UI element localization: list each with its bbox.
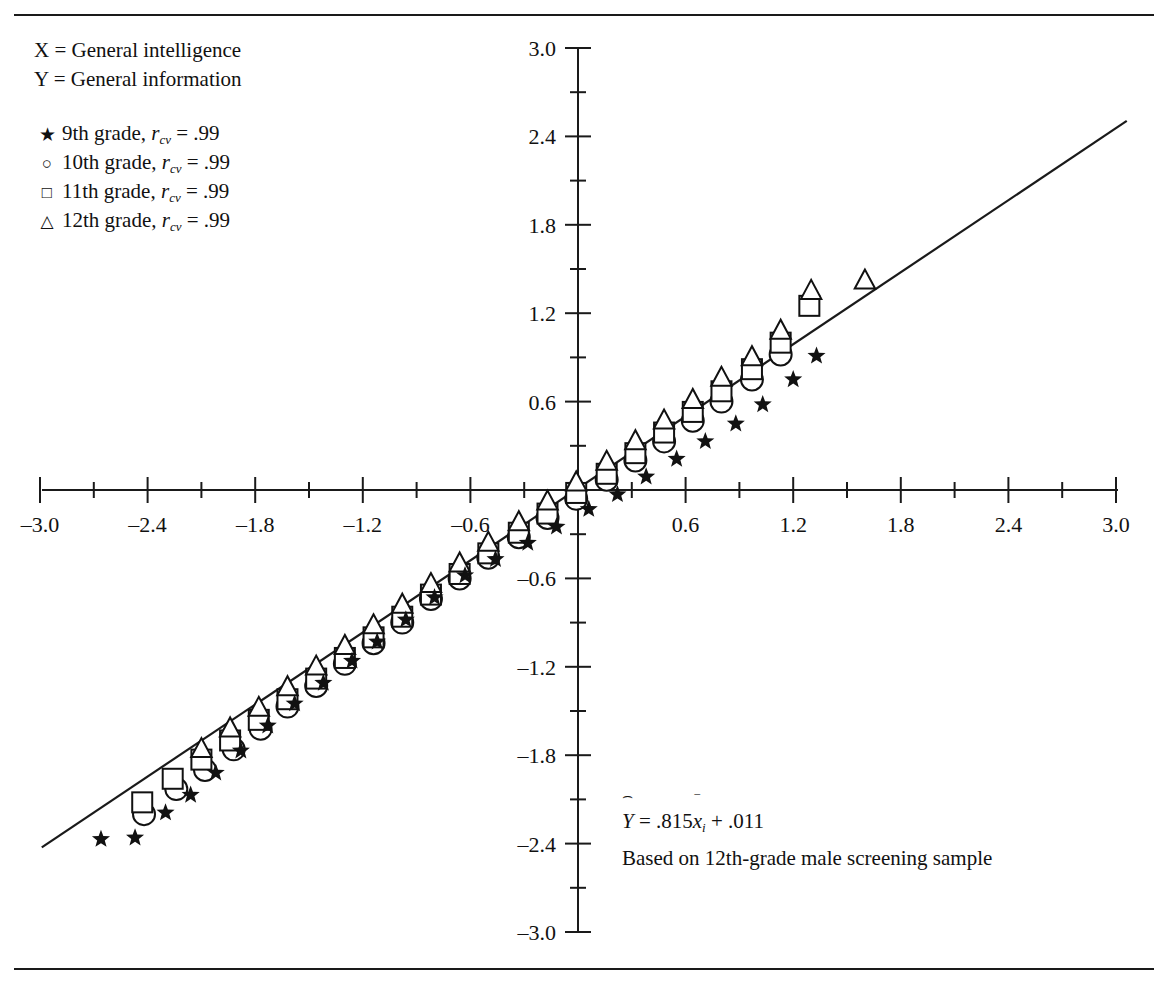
- data-point-star: [157, 803, 175, 820]
- x-axis-tick-label: 2.4: [995, 512, 1023, 537]
- data-point-triangle: [855, 270, 875, 289]
- data-point-triangle: [191, 738, 211, 757]
- overbar-icon: ‾: [695, 794, 700, 809]
- data-point-star: [807, 346, 825, 363]
- data-point-triangle: [596, 451, 616, 470]
- y-axis-tick-label: –1.8: [517, 743, 557, 768]
- regression-annotation: ⌢Y = .815‾xi + .011 Based on 12th-grade …: [622, 806, 992, 873]
- y-axis-tick-label: –1.2: [517, 655, 557, 680]
- data-point-triangle: [801, 280, 821, 299]
- data-point-triangle: [509, 511, 529, 530]
- x-axis-tick-label: –0.6: [450, 512, 490, 537]
- x-axis-tick-label: 1.2: [779, 512, 807, 537]
- x-axis-tick-label: –1.8: [235, 512, 275, 537]
- hat-icon: ⌢: [622, 787, 633, 804]
- data-point-star: [727, 414, 745, 431]
- x-axis-tick-label: 3.0: [1102, 512, 1130, 537]
- data-point-triangle: [654, 410, 674, 429]
- x-axis-tick-label: 0.6: [672, 512, 700, 537]
- x-axis-tick-label: –1.2: [343, 512, 383, 537]
- data-point-triangle: [625, 430, 645, 449]
- y-axis-tick-label: 1.8: [529, 213, 557, 238]
- y-axis-tick-label: 0.6: [529, 390, 557, 415]
- x-axis-tick-label: –2.4: [127, 512, 167, 537]
- y-axis-tick-label: 3.0: [529, 36, 557, 61]
- x-axis-tick-label: 1.8: [887, 512, 915, 537]
- data-point-star: [784, 370, 802, 387]
- x-axis-tick-label: –3.0: [20, 512, 60, 537]
- data-point-triangle: [335, 635, 355, 654]
- data-point-triangle: [363, 614, 383, 633]
- data-point-square: [163, 769, 183, 789]
- regression-equation: ⌢Y = .815‾xi + .011: [622, 806, 992, 843]
- data-point-triangle: [711, 367, 731, 386]
- figure-container: X = General intelligence Y = General inf…: [0, 0, 1165, 986]
- y-axis-tick-label: –0.6: [517, 566, 557, 591]
- data-point-star: [126, 828, 144, 845]
- data-point-star: [754, 395, 772, 412]
- data-point-triangle: [770, 320, 790, 339]
- data-point-star: [92, 830, 110, 847]
- y-axis-tick-label: –3.0: [517, 920, 557, 945]
- data-point-triangle: [742, 346, 762, 365]
- data-point-square: [132, 792, 152, 812]
- data-point-triangle: [683, 389, 703, 408]
- y-axis-tick-label: –2.4: [517, 832, 557, 857]
- annotation-caption: Based on 12th-grade male screening sampl…: [622, 843, 992, 873]
- data-point-star: [668, 450, 686, 467]
- data-point-triangle: [392, 594, 412, 613]
- data-point-star: [696, 432, 714, 449]
- y-axis-tick-label: 2.4: [529, 124, 557, 149]
- y-axis-tick-label: 1.2: [529, 301, 557, 326]
- data-point-triangle: [537, 491, 557, 510]
- data-point-triangle: [566, 471, 586, 490]
